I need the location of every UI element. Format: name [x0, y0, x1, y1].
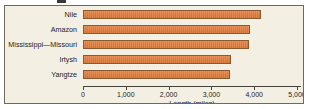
bars-layer — [83, 10, 303, 86]
x-axis-line — [83, 86, 301, 87]
category-label-mississippi: Mississippi—Missouri — [8, 40, 77, 50]
x-axis-tick-label-1: 1,000 — [117, 90, 135, 99]
chart-frame: Nile Amazon Mississippi—Missouri Irtysh … — [4, 5, 304, 104]
x-axis-tick-label-0: 0 — [81, 90, 85, 99]
x-axis-tick-label-4: 4,000 — [245, 90, 263, 99]
bar-yangtze — [83, 70, 230, 79]
bar-amazon — [83, 25, 250, 34]
bar-irtysh — [83, 55, 231, 64]
bar-mississippi — [83, 40, 249, 49]
x-axis-tick-label-5: 5,000 — [288, 90, 304, 99]
chart-figure: Nile Amazon Mississippi—Missouri Irtysh … — [0, 0, 310, 109]
category-label-amazon: Amazon — [51, 25, 77, 35]
x-axis-tick-label-3: 3,000 — [203, 90, 221, 99]
category-label-nile: Nile — [65, 10, 77, 20]
x-axis-tick-label-2: 2,000 — [160, 90, 178, 99]
bar-nile — [83, 10, 261, 19]
category-label-yangtze: Yangtze — [51, 70, 77, 80]
category-axis-labels: Nile Amazon Mississippi—Missouri Irtysh … — [5, 10, 79, 86]
plot-area: Nile Amazon Mississippi—Missouri Irtysh … — [5, 6, 303, 103]
cropped-title-glyph — [57, 0, 66, 3]
category-label-irtysh: Irtysh — [59, 55, 77, 65]
x-axis-title: Length (miles) — [83, 99, 301, 104]
